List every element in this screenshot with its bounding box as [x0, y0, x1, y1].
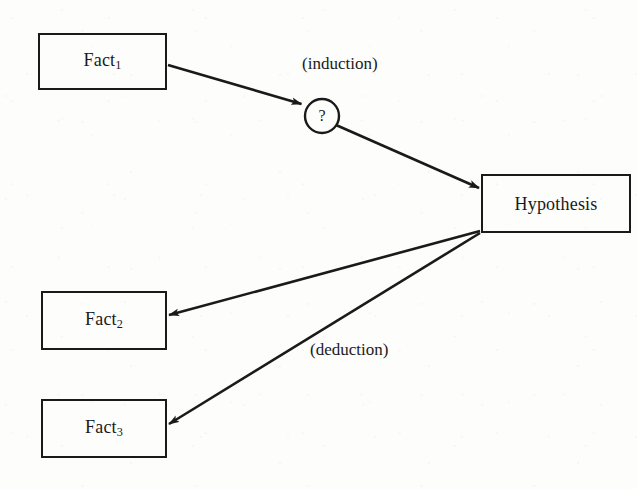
question-node-label: ?: [310, 108, 334, 124]
node-fact3: Fact3: [41, 399, 167, 458]
edge-hypothesis-to-fact2: [169, 231, 480, 315]
induction-edge-label: (induction): [302, 55, 378, 72]
node-fact2: Fact2: [41, 291, 167, 350]
diagram-canvas: Fact1 ? Hypothesis Fact2 Fact3 (inductio…: [0, 0, 637, 489]
node-hypothesis: Hypothesis: [481, 174, 631, 233]
deduction-edge-label: (deduction): [310, 341, 388, 358]
node-fact1: Fact1: [38, 33, 167, 90]
node-hypothesis-label: Hypothesis: [515, 195, 598, 213]
edge-question-to-hypothesis: [336, 125, 479, 188]
edge-hypothesis-to-fact3: [169, 233, 480, 424]
edge-fact1-to-question: [168, 65, 302, 104]
node-fact3-label: Fact3: [85, 418, 123, 439]
node-fact1-label: Fact1: [84, 51, 122, 72]
node-fact2-label: Fact2: [85, 310, 123, 331]
